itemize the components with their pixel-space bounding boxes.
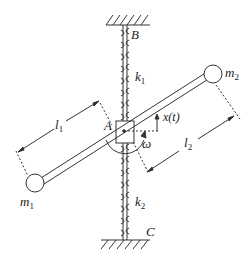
spring-rod-mechanism-diagram: B C A k1 k2 m1 m2 l1 l2 x(t) ω xyxy=(0,0,251,253)
mass-m2 xyxy=(204,65,222,83)
mass-m1 xyxy=(26,174,44,192)
x-arrowhead-icon xyxy=(155,114,159,119)
label-B: B xyxy=(131,27,139,42)
label-l1: l1 xyxy=(55,117,63,134)
bottom-wall xyxy=(101,240,150,249)
label-m1: m1 xyxy=(20,194,34,211)
label-C: C xyxy=(146,224,155,239)
label-m2: m2 xyxy=(225,65,239,82)
top-wall xyxy=(106,15,150,25)
label-x-t: x(t) xyxy=(162,110,180,124)
dimension-l2 xyxy=(133,85,240,172)
label-A: A xyxy=(103,118,112,133)
dimension-l1 xyxy=(16,101,112,176)
label-k2: k2 xyxy=(135,194,145,211)
label-l2: l2 xyxy=(184,135,192,152)
label-omega: ω xyxy=(142,136,151,151)
spring-k2 xyxy=(121,144,129,236)
label-k1: k1 xyxy=(135,69,145,86)
spring-k1 xyxy=(121,28,129,120)
